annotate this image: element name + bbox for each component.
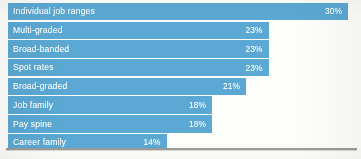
bar-category-label: Spot rates — [8, 63, 54, 72]
bar: Broad-banded23% — [8, 40, 269, 57]
bars-area: Individual job ranges30%Multi-graded23%B… — [0, 3, 361, 145]
bar-value-label: 30% — [325, 7, 348, 15]
bar-value-label: 23% — [246, 64, 269, 72]
bar-row: Job family18% — [0, 96, 361, 113]
bar-category-label: Individual job ranges — [8, 7, 95, 16]
bar-row: Spot rates23% — [0, 59, 361, 76]
bar: Job family18% — [8, 96, 212, 113]
bar-value-label: 18% — [189, 101, 212, 109]
bar: Broad-graded21% — [8, 78, 246, 95]
bar-value-label: 14% — [144, 138, 167, 146]
bar-category-label: Career family — [8, 138, 66, 147]
bar-row: Broad-banded23% — [0, 40, 361, 57]
bar: Multi-graded23% — [8, 22, 269, 39]
bar-category-label: Multi-graded — [8, 26, 63, 35]
bar: Spot rates23% — [8, 59, 269, 76]
bar-row: Pay spine18% — [0, 115, 361, 132]
bar-category-label: Broad-graded — [8, 82, 67, 91]
bar: Individual job ranges30% — [8, 3, 348, 20]
bar: Pay spine18% — [8, 115, 212, 132]
bar-category-label: Job family — [8, 101, 53, 110]
horizontal-bar-chart: Individual job ranges30%Multi-graded23%B… — [0, 0, 361, 159]
bar-row: Broad-graded21% — [0, 78, 361, 95]
bar-category-label: Broad-banded — [8, 45, 69, 54]
bar-value-label: 18% — [189, 120, 212, 128]
bar-row: Multi-graded23% — [0, 22, 361, 39]
bar-value-label: 21% — [223, 82, 246, 90]
bar-row: Individual job ranges30% — [0, 3, 361, 20]
bar-value-label: 23% — [246, 26, 269, 34]
bar-value-label: 23% — [246, 45, 269, 53]
bar-category-label: Pay spine — [8, 120, 52, 129]
chart-baseline-shadow — [6, 150, 357, 151]
